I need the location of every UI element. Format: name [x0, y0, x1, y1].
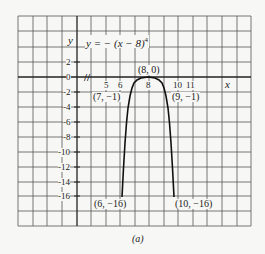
y-tick-label: -12 — [58, 163, 70, 172]
y-tick-label: -6 — [63, 118, 71, 127]
y-tick-label: -10 — [58, 148, 70, 157]
y-tick-label: 2 — [66, 58, 71, 67]
y-tick-label: -4 — [63, 103, 71, 112]
x-axis-label: x — [224, 79, 231, 89]
y-tick-label: -2 — [63, 88, 71, 97]
figure-caption: (a) — [131, 234, 145, 244]
x-tick-label: 5 — [104, 81, 109, 90]
equation-label: y = − (x − 8)4 — [85, 35, 149, 48]
y-axis-label: y — [67, 35, 74, 45]
y-tick-label: -8 — [63, 133, 71, 142]
y-tick-label: -14 — [58, 178, 70, 187]
equation-exponent: 4 — [145, 36, 149, 44]
point-label-left-near: (7, −1) — [92, 92, 121, 102]
x-tick-label: 11 — [186, 81, 195, 90]
x-tick-label: 6 — [118, 81, 123, 90]
y-tick-label: -16 — [58, 192, 70, 201]
x-tick-label: 8 — [146, 81, 151, 90]
axis-break-mark: // — [83, 72, 91, 82]
point-label-right-near: (9, −1) — [171, 92, 200, 102]
y-tick-label: 0 — [66, 73, 71, 82]
x-tick-label: 10 — [173, 81, 182, 90]
equation-text: y = − (x − 8) — [86, 37, 145, 49]
point-label-right-bottom: (10, −16) — [174, 199, 213, 209]
point-label-left-bottom: (6, −16) — [93, 199, 127, 209]
point-label-peak: (8, 0) — [137, 65, 161, 75]
